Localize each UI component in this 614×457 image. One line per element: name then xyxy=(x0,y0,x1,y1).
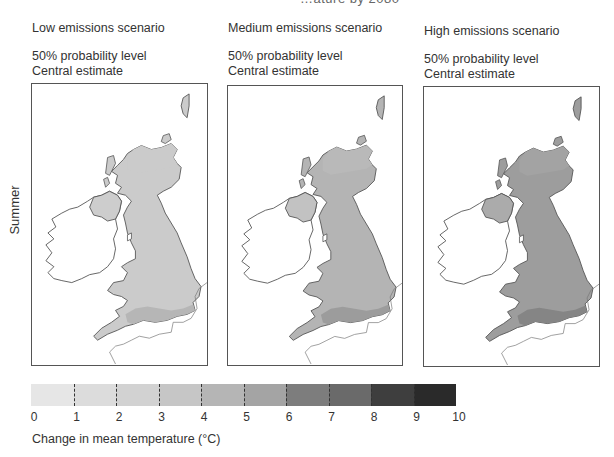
tick-label: 3 xyxy=(158,410,165,424)
orkney-islands xyxy=(553,136,563,146)
tick-label: 0 xyxy=(31,410,38,424)
estimate-label: Central estimate xyxy=(32,64,165,79)
color-scale-segment xyxy=(201,384,244,406)
probability-label: 50% probability level xyxy=(228,49,382,64)
color-scale-segment xyxy=(286,384,329,406)
figure-title-partial: …ature by 2080 xyxy=(300,0,400,6)
tick-label: 1 xyxy=(73,410,80,424)
estimate-label: Central estimate xyxy=(424,67,559,82)
color-scale-segment xyxy=(116,384,159,406)
map-high-emissions xyxy=(423,86,600,367)
shetland-islands xyxy=(376,96,384,120)
color-scale-segment xyxy=(329,384,372,406)
color-scale-segment xyxy=(74,384,117,406)
map-medium-emissions xyxy=(227,85,403,366)
tick-label: 2 xyxy=(116,410,123,424)
uk-map-icon xyxy=(228,86,402,365)
tick-label: 8 xyxy=(371,410,378,424)
panel-header-medium: Medium emissions scenario 50% probabilit… xyxy=(228,21,382,79)
estimate-label: Central estimate xyxy=(228,64,382,79)
color-scale-segment xyxy=(244,384,287,406)
tick-label: 6 xyxy=(286,410,293,424)
panel-header-low: Low emissions scenario 50% probability l… xyxy=(32,21,165,79)
color-scale-segment xyxy=(159,384,202,406)
tick-label: 10 xyxy=(452,410,465,424)
scenario-title: High emissions scenario xyxy=(424,24,559,39)
panel-header-high: High emissions scenario 50% probability … xyxy=(424,24,559,82)
season-label: Summer xyxy=(4,170,24,250)
uk-map-icon xyxy=(32,84,207,365)
uk-map-icon xyxy=(424,87,599,366)
color-scale-segment xyxy=(31,384,74,406)
tick-label: 4 xyxy=(201,410,208,424)
color-scale-segment xyxy=(414,384,457,406)
probability-label: 50% probability level xyxy=(32,49,165,64)
color-scale-title: Change in mean temperature (°C) xyxy=(32,432,220,446)
map-low-emissions xyxy=(31,83,208,366)
shetland-islands xyxy=(573,97,581,121)
color-scale-bar xyxy=(31,384,456,406)
tick-label: 7 xyxy=(328,410,335,424)
orkney-islands xyxy=(161,134,171,144)
tick-label: 9 xyxy=(413,410,420,424)
shetland-islands xyxy=(181,94,189,118)
scenario-title: Low emissions scenario xyxy=(32,21,165,36)
probability-label: 50% probability level xyxy=(424,52,559,67)
color-scale-segment xyxy=(371,384,414,406)
orkney-islands xyxy=(357,135,367,145)
tick-label: 5 xyxy=(243,410,250,424)
scenario-title: Medium emissions scenario xyxy=(228,21,382,36)
